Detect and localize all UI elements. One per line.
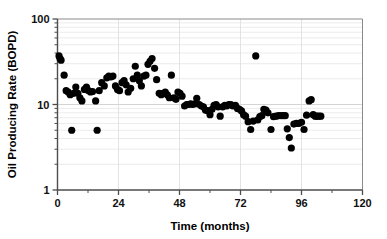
data-point [132, 63, 139, 70]
x-tick-label: 0 [54, 197, 60, 209]
data-point [193, 95, 200, 102]
data-point [308, 96, 315, 103]
data-point [151, 65, 158, 72]
data-point [57, 57, 64, 64]
y-tick-label: 100 [31, 13, 49, 25]
data-point [286, 134, 293, 141]
data-point [78, 97, 85, 104]
y-tick-label: 10 [37, 99, 49, 111]
x-tick-label: 48 [173, 197, 185, 209]
data-point [138, 82, 145, 89]
data-point [252, 52, 259, 59]
data-point [148, 55, 155, 62]
data-point [89, 88, 96, 95]
data-point [101, 82, 108, 89]
data-point [142, 72, 149, 79]
data-point [267, 126, 274, 133]
data-points-group [55, 52, 324, 151]
x-tick-label: 120 [353, 197, 371, 209]
x-tick-label: 96 [295, 197, 307, 209]
data-point [288, 144, 295, 151]
oil-rate-scatter-chart: 110100024487296120Time (months)Oil Produ… [0, 0, 387, 239]
data-point [298, 119, 305, 126]
chart-canvas: 110100024487296120Time (months)Oil Produ… [0, 0, 387, 239]
data-point [217, 113, 224, 120]
data-point [247, 126, 254, 133]
data-point [300, 126, 307, 133]
y-axis-title-text: Oil Producing Rate (BOPD) [6, 31, 18, 179]
data-point [317, 113, 324, 120]
data-point [92, 97, 99, 104]
data-point [284, 125, 291, 132]
data-point [68, 127, 75, 134]
data-point [168, 72, 175, 79]
data-point [178, 93, 185, 100]
data-point [61, 72, 68, 79]
gridlines [58, 19, 363, 190]
data-point [109, 72, 116, 79]
data-point [116, 87, 123, 94]
x-axis-title-text: Time (months) [170, 220, 249, 232]
data-point [72, 83, 79, 90]
axis-tick-labels: 110100024487296120 [31, 13, 372, 209]
data-point [282, 112, 289, 119]
x-tick-label: 72 [234, 197, 246, 209]
data-point [172, 96, 179, 103]
x-tick-label: 24 [112, 197, 125, 209]
data-point [94, 127, 101, 134]
data-point [153, 76, 160, 83]
y-tick-label: 1 [43, 184, 49, 196]
data-point [303, 112, 310, 119]
data-point [127, 85, 134, 92]
